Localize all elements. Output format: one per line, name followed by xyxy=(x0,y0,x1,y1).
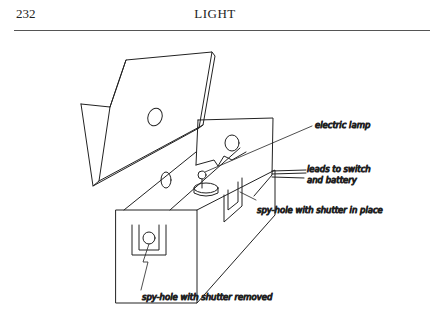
box-illustration: electric lamp leads to switch and batter… xyxy=(0,0,430,319)
box xyxy=(116,118,275,303)
lid xyxy=(81,52,215,186)
label-shutter-removed: spy-hole with shutter removed xyxy=(142,292,273,302)
label-electric-lamp: electric lamp xyxy=(315,120,370,130)
label-shutter-in-place: spy-hole with shutter in place xyxy=(257,205,383,215)
leads-wires xyxy=(272,170,306,178)
label-leads-line2: and battery xyxy=(307,175,358,185)
label-leads-line1: leads to switch xyxy=(307,164,371,174)
